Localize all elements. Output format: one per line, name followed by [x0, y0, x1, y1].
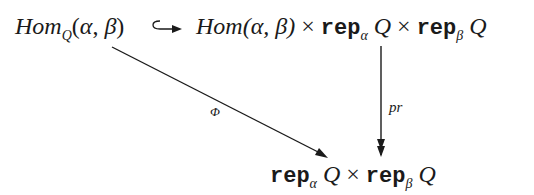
projection-arrow-icon: [377, 46, 385, 157]
hook-arrow-icon: [153, 21, 182, 33]
label-phi: Φ: [210, 104, 220, 120]
label-pr: pr: [389, 99, 402, 116]
phi-arrow-icon: [112, 47, 328, 158]
arrows-layer: [0, 0, 534, 195]
